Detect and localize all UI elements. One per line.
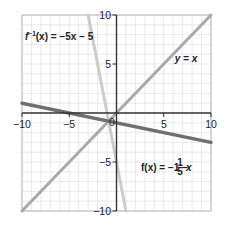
inverse-function-label: f−1(x) = −5x − 5 (25, 30, 94, 42)
x-tick-label: 5 (161, 118, 167, 130)
x-tick-label: 10 (205, 118, 217, 130)
x-tick-label: −5 (63, 118, 75, 130)
function-inverse-graph: −10 −5 0 5 10 10 5 −5 −10 f−1(x) = −5x −… (0, 0, 229, 226)
x-tick-label: −10 (13, 118, 31, 130)
svg-text:x: x (185, 162, 192, 173)
svg-text:5: 5 (177, 166, 183, 177)
f-function-label: f(x) = −1 − 1 5 x (141, 157, 192, 177)
y-tick-label: −10 (93, 205, 111, 217)
y-tick-label: 5 (105, 58, 111, 70)
identity-label: y = x (174, 53, 198, 64)
y-tick-label: −5 (99, 156, 111, 168)
y-tick-label: 10 (99, 9, 111, 21)
x-tick-label: 0 (109, 116, 115, 128)
